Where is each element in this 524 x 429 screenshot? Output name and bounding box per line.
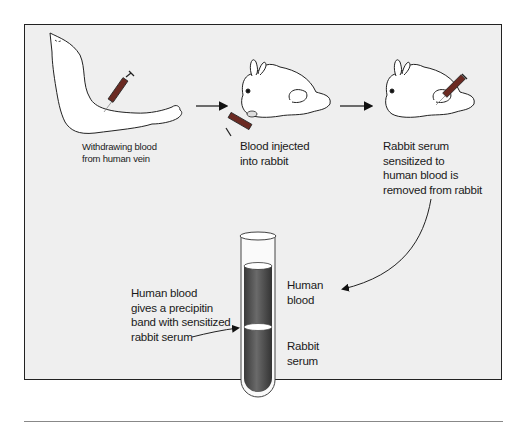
step-2-line-2: into rabbit	[240, 154, 309, 169]
syringe-rabbit-1-icon	[226, 111, 257, 136]
human-blood-line-1: Human	[287, 278, 323, 293]
rabbit-serum-line-1: Rabbit	[287, 339, 319, 354]
liquid-surface	[244, 263, 272, 270]
step-3-line-4: removed from rabbit	[383, 183, 482, 198]
step-3-line-3: human blood is	[383, 168, 482, 183]
callout-line-4: rabbit serum	[131, 330, 231, 345]
precipitin-band	[244, 324, 272, 331]
rabbit-1-illustration	[242, 60, 331, 118]
callout-line-2: gives a precipitin	[131, 301, 231, 316]
step-1-line-2: from human vein	[82, 153, 157, 165]
diagram-artwork	[0, 0, 524, 429]
step-3-line-2: sensitized to	[383, 154, 482, 169]
step-1-label: Withdrawing blood from human vein	[82, 141, 157, 165]
callout-line-3: band with sensitized	[131, 315, 231, 330]
step-3-line-1: Rabbit serum	[383, 139, 482, 154]
syringe-arm-icon	[104, 71, 134, 112]
step-1-line-1: Withdrawing blood	[82, 141, 157, 153]
rabbit-serum-line-2: serum	[287, 354, 319, 369]
step-2-label: Blood injected into rabbit	[240, 139, 309, 168]
human-blood-layer-label: Human blood	[287, 278, 323, 307]
human-blood-line-2: blood	[287, 293, 323, 308]
precipitin-band-callout: Human blood gives a precipitin band with…	[131, 286, 231, 344]
test-tube	[240, 232, 276, 397]
step-3-label: Rabbit serum sensitized to human blood i…	[383, 139, 482, 197]
curved-arrow-serum-to-tube	[343, 199, 431, 289]
step-2-line-1: Blood injected	[240, 139, 309, 154]
callout-line-1: Human blood	[131, 286, 231, 301]
rabbit-2-illustration	[386, 60, 475, 118]
rabbit-serum-layer-label: Rabbit serum	[287, 339, 319, 368]
human-arm-illustration	[50, 33, 182, 133]
bottom-divider	[24, 421, 503, 422]
